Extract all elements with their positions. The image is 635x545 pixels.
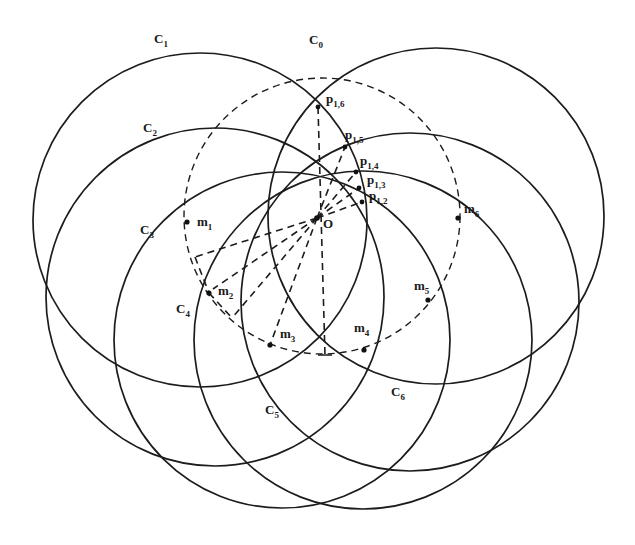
point-m3 bbox=[267, 342, 272, 347]
label-origin: O bbox=[323, 216, 333, 231]
point-p15 bbox=[343, 145, 348, 150]
background bbox=[0, 0, 635, 545]
point-m6 bbox=[455, 215, 460, 220]
point-m2 bbox=[206, 290, 211, 295]
point-origin bbox=[314, 215, 320, 221]
point-p13 bbox=[357, 186, 362, 191]
point-p16 bbox=[316, 105, 321, 110]
point-m5 bbox=[425, 297, 430, 302]
circle-construction-diagram: C1C2C3C4C5C6C0m1m2m3m4m5m6p1,6p1,5p1,4p1… bbox=[0, 0, 635, 545]
point-m1 bbox=[184, 219, 189, 224]
point-m4 bbox=[361, 347, 366, 352]
point-p14 bbox=[354, 170, 359, 175]
point-p12 bbox=[360, 200, 365, 205]
